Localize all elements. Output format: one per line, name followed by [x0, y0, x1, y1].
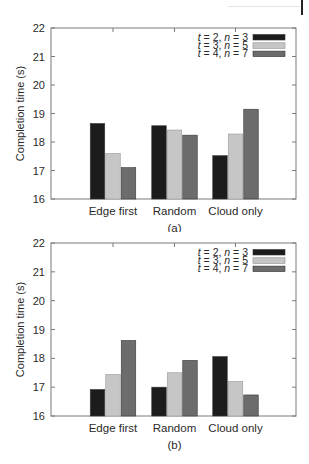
y-tick-label: 19: [33, 108, 45, 120]
x-tick-label: Cloud only: [208, 205, 263, 217]
bar: [213, 156, 228, 199]
y-tick-label: 21: [33, 266, 45, 278]
bar: [244, 109, 259, 199]
y-tick-label: 17: [33, 381, 45, 393]
bars: [90, 109, 258, 199]
bar: [244, 395, 259, 416]
x-tick-label: Random: [153, 422, 196, 434]
bar: [152, 387, 167, 416]
legend-swatch: [253, 35, 285, 41]
x-tick-label: Edge first: [89, 205, 138, 217]
legend-label: t = 4, n = 7: [198, 47, 248, 59]
legend-swatch: [253, 266, 285, 272]
legend-swatch: [253, 43, 285, 49]
bar: [106, 374, 121, 416]
y-axis-label: Completion time (s): [14, 282, 26, 377]
x-tick-label: Random: [153, 205, 196, 217]
bar: [121, 340, 136, 416]
bar: [90, 389, 105, 416]
bar: [183, 135, 198, 199]
chart-b: 16171819202122Completion time (s)Edge fi…: [0, 232, 309, 464]
bar: [183, 360, 198, 416]
bar: [90, 123, 105, 199]
bar: [167, 130, 182, 199]
legend: t = 2, n = 3t = 3, n = 5t = 4, n = 7: [198, 246, 285, 275]
bar: [228, 381, 243, 416]
bar: [106, 153, 121, 199]
y-tick-label: 16: [33, 410, 45, 422]
y-axis-label: Completion time (s): [14, 66, 26, 161]
legend: t = 2, n = 3t = 3, n = 5t = 4, n = 7: [198, 31, 285, 60]
y-tick-label: 19: [33, 324, 45, 336]
legend-swatch: [253, 51, 285, 57]
bars: [90, 340, 258, 416]
y-tick-label: 17: [33, 165, 45, 177]
bar: [152, 126, 167, 199]
figure-caption: (b): [167, 439, 181, 451]
y-tick-label: 16: [33, 193, 45, 205]
y-tick-label: 22: [33, 22, 45, 34]
chart-a: 16171819202122Completion time (s)Edge fi…: [0, 0, 309, 232]
y-tick-label: 22: [33, 237, 45, 249]
y-tick-label: 18: [33, 352, 45, 364]
y-tick-label: 20: [33, 79, 45, 91]
legend-label: t = 4, n = 7: [198, 262, 248, 274]
bar: [228, 134, 243, 199]
x-tick-label: Cloud only: [208, 422, 263, 434]
legend-swatch: [253, 250, 285, 256]
legend-swatch: [253, 258, 285, 264]
bar: [213, 357, 228, 416]
x-tick-label: Edge first: [89, 422, 138, 434]
y-tick-label: 18: [33, 136, 45, 148]
legend-item: t = 4, n = 7: [198, 262, 285, 274]
bar: [121, 168, 136, 199]
bar: [167, 373, 182, 416]
legend-item: t = 4, n = 7: [198, 47, 285, 59]
y-tick-label: 20: [33, 295, 45, 307]
y-tick-label: 21: [33, 51, 45, 63]
figure-caption: (a): [167, 222, 181, 232]
